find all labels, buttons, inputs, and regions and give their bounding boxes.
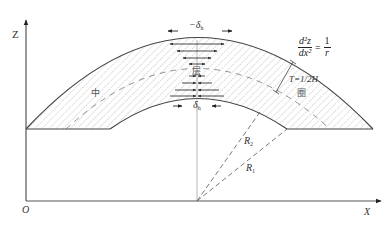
eq-equals: = [315,42,321,53]
r1-label: R1 [246,163,255,174]
thickness-label: T=1/2H [289,75,318,84]
delta-top-sub: h [200,25,203,31]
delta-bottom-label: δh [193,100,201,111]
fold-bending-diagram [0,0,389,225]
r2-sub: 2 [250,141,253,147]
radius-r1-line [197,129,287,201]
origin-label: O [22,205,29,215]
eq-rhs-denominator: r [325,48,329,59]
eq-rhs-numerator: 1 [324,36,331,48]
delta-bottom-sub: h [198,105,201,111]
r1-sub: 1 [252,168,255,174]
x-axis-label: X [364,207,370,217]
delta-top-label: −δh [189,20,203,31]
delta-top-symbol: −δ [189,19,200,30]
eq-numerator: d²z [298,36,312,48]
z-axis-label: Z [12,29,19,40]
circle-char: 圈 [297,89,306,98]
layer-char: 层 [192,67,201,76]
eq-denominator: dx² [299,48,311,59]
r2-label: R2 [244,136,253,147]
curvature-equation: d²z dx² = 1 r [298,36,331,58]
neutral-char: 中 [91,89,100,98]
radius-r2-line [197,112,260,201]
